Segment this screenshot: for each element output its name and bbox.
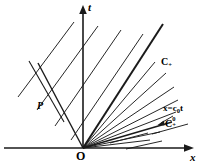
parallel-line-1 [18, 22, 74, 97]
c-plus-zero-base: C [165, 118, 172, 129]
p-cross-line [29, 61, 64, 122]
x-equals-c0t-tail: t [180, 103, 183, 113]
c-plus-label: C+ [161, 57, 172, 69]
x-axis [4, 144, 194, 152]
c-plus-zero-subscript: + [172, 122, 176, 129]
c-plus-zero-label: C0+ [165, 117, 177, 129]
figure-container: t x O P C+ x=c0t C0+ [0, 0, 204, 168]
parallel-characteristic-lines [18, 22, 143, 140]
parallel-line-3 [55, 30, 121, 126]
origin-label: O [76, 150, 85, 162]
t-axis-label: t [88, 2, 91, 13]
characteristics-diagram-svg [0, 0, 204, 168]
x-equals-c0t-base: x=c [163, 103, 177, 113]
x-equals-c0t-label: x=c0t [163, 104, 183, 115]
parallel-line-2 [37, 26, 98, 110]
characteristic-fan [83, 24, 178, 148]
c-plus-zero-scripts: 0+ [172, 117, 177, 127]
x-axis-label: x [190, 152, 196, 163]
c-plus-subscript: + [168, 61, 172, 68]
point-p-label: P [37, 101, 43, 111]
fan-ray-left-boundary [38, 63, 83, 148]
